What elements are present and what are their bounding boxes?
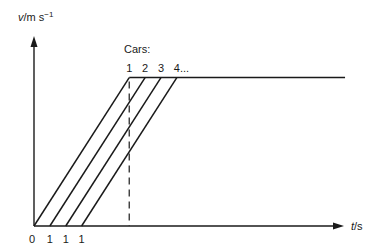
car-1-acceleration-line xyxy=(34,78,129,226)
x-axis-label: t/s xyxy=(351,220,363,232)
y-axis-label: v/m s−1 xyxy=(18,10,54,23)
car-2-acceleration-line xyxy=(50,78,145,226)
velocity-time-diagram: v/m s−1 t/s Cars: 1234... 0111 xyxy=(0,0,378,247)
x-tick-labels: 0111 xyxy=(29,233,85,245)
car-3-acceleration-line xyxy=(66,78,161,226)
x-tick-label-1: 1 xyxy=(47,233,53,245)
x-tick-label-3: 1 xyxy=(79,233,85,245)
x-axis-arrow-icon xyxy=(333,223,344,230)
car-4-label: 4... xyxy=(174,62,189,74)
car-1-label: 1 xyxy=(126,62,132,74)
car-2-label: 2 xyxy=(142,62,148,74)
car-3-label: 3 xyxy=(158,62,164,74)
cars-label: Cars: xyxy=(124,43,150,55)
x-tick-label-0: 0 xyxy=(29,233,35,245)
car-lines xyxy=(34,78,345,226)
y-axis-arrow-icon xyxy=(31,36,38,47)
x-tick-label-2: 1 xyxy=(63,233,69,245)
car-number-labels: 1234... xyxy=(126,62,189,74)
